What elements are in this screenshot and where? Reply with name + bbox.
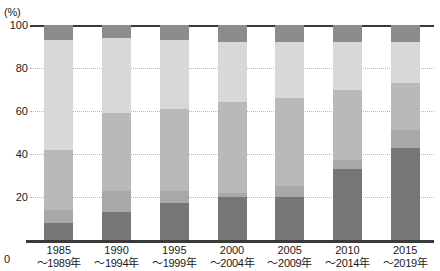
bar-segment-segment-2[interactable] <box>391 130 420 147</box>
stacked-bar[interactable] <box>391 25 420 240</box>
x-axis-labels: 1985～1989年1990～1994年1995～1999年2000～2004年… <box>30 244 434 271</box>
bar-segment-segment-5[interactable] <box>275 25 304 42</box>
x-axis-label-range: ～1999年 <box>145 257 203 270</box>
bar-segment-segment-2[interactable] <box>333 160 362 169</box>
bar-slot <box>145 25 203 240</box>
x-axis-label-range: ～1989年 <box>30 257 88 270</box>
bar-group <box>30 25 434 240</box>
x-axis-label-year: 1995 <box>145 244 203 257</box>
bar-segment-segment-4[interactable] <box>102 38 131 113</box>
bar-segment-segment-5[interactable] <box>218 25 247 42</box>
bar-segment-segment-4[interactable] <box>160 40 189 109</box>
bar-segment-segment-5[interactable] <box>391 25 420 42</box>
bar-segment-segment-3[interactable] <box>218 102 247 192</box>
bar-segment-segment-5[interactable] <box>333 25 362 42</box>
x-axis-label: 1985～1989年 <box>30 244 88 271</box>
stacked-bar[interactable] <box>160 25 189 240</box>
bar-segment-segment-1[interactable] <box>160 203 189 240</box>
bar-segment-segment-4[interactable] <box>218 42 247 102</box>
bar-segment-segment-3[interactable] <box>102 113 131 190</box>
bar-segment-segment-4[interactable] <box>391 42 420 83</box>
y-tick-100: 100 <box>2 20 28 31</box>
bar-segment-segment-5[interactable] <box>102 25 131 38</box>
bar-segment-segment-1[interactable] <box>218 197 247 240</box>
x-axis-label: 2010～2014年 <box>319 244 377 271</box>
bar-slot <box>203 25 261 240</box>
x-axis-label-range: ～2004年 <box>203 257 261 270</box>
bar-segment-segment-1[interactable] <box>44 223 73 240</box>
plot-area <box>30 25 434 240</box>
bar-slot <box>30 25 88 240</box>
stacked-bar[interactable] <box>218 25 247 240</box>
bar-segment-segment-2[interactable] <box>160 191 189 204</box>
bar-segment-segment-2[interactable] <box>102 191 131 213</box>
x-axis-label-range: ～1994年 <box>88 257 146 270</box>
x-axis-label-year: 2010 <box>319 244 377 257</box>
y-axis-unit-label: (%) <box>4 6 21 18</box>
stacked-bar[interactable] <box>44 25 73 240</box>
bar-segment-segment-1[interactable] <box>275 197 304 240</box>
x-axis-label-year: 1990 <box>88 244 146 257</box>
bar-segment-segment-3[interactable] <box>333 90 362 161</box>
y-tick-zero: 0 <box>4 254 10 265</box>
x-axis-label-year: 2005 <box>261 244 319 257</box>
stacked-bar[interactable] <box>102 25 131 240</box>
bar-segment-segment-2[interactable] <box>275 186 304 197</box>
stacked-bar[interactable] <box>275 25 304 240</box>
x-axis-label-year: 2000 <box>203 244 261 257</box>
x-axis-line <box>26 240 434 243</box>
bar-segment-segment-3[interactable] <box>44 150 73 210</box>
bar-slot <box>88 25 146 240</box>
stacked-bar[interactable] <box>333 25 362 240</box>
bar-segment-segment-5[interactable] <box>160 25 189 40</box>
y-tick-20: 20 <box>2 192 28 203</box>
x-axis-label: 1995～1999年 <box>145 244 203 271</box>
x-axis-label-range: ～2009年 <box>261 257 319 270</box>
bar-segment-segment-4[interactable] <box>275 42 304 98</box>
x-axis-label: 2015～2019年 <box>376 244 434 271</box>
x-axis-label-year: 2015 <box>376 244 434 257</box>
bar-segment-segment-3[interactable] <box>160 109 189 191</box>
bar-segment-segment-1[interactable] <box>333 169 362 240</box>
bar-segment-segment-1[interactable] <box>102 212 131 240</box>
x-axis-label: 2005～2009年 <box>261 244 319 271</box>
bar-segment-segment-4[interactable] <box>44 40 73 150</box>
stacked-bar-chart: (%) 0 20406080100 1985～1989年1990～1994年19… <box>0 0 440 271</box>
bar-segment-segment-2[interactable] <box>44 210 73 223</box>
x-axis-label-range: ～2019年 <box>376 257 434 270</box>
bar-segment-segment-1[interactable] <box>391 148 420 240</box>
bar-segment-segment-3[interactable] <box>275 98 304 186</box>
y-tick-40: 40 <box>2 149 28 160</box>
x-axis-label: 1990～1994年 <box>88 244 146 271</box>
bar-slot <box>319 25 377 240</box>
bar-slot <box>376 25 434 240</box>
bar-slot <box>261 25 319 240</box>
x-axis-label-range: ～2014年 <box>319 257 377 270</box>
y-tick-80: 80 <box>2 63 28 74</box>
bar-segment-segment-3[interactable] <box>391 83 420 130</box>
x-axis-label-year: 1985 <box>30 244 88 257</box>
x-axis-label: 2000～2004年 <box>203 244 261 271</box>
bar-segment-segment-4[interactable] <box>333 42 362 89</box>
y-tick-60: 60 <box>2 106 28 117</box>
bar-segment-segment-5[interactable] <box>44 25 73 40</box>
